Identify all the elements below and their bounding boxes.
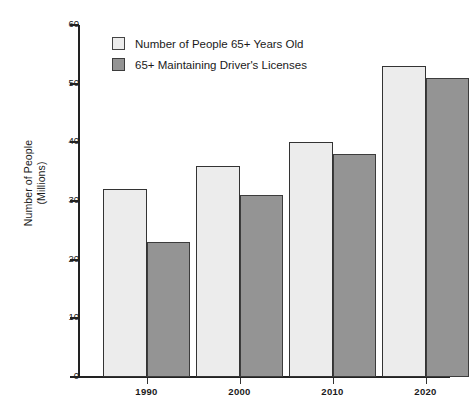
- y-axis-tick-mark: [70, 83, 79, 85]
- y-axis-label-line-1: Number of People: [22, 103, 35, 263]
- y-axis-tick-mark: [70, 24, 79, 26]
- x-axis-tick-label-2010: 2010: [303, 386, 363, 397]
- bar-2020-series-1: [382, 66, 426, 377]
- y-axis-tick-mark: [70, 200, 79, 202]
- x-axis-tick-mark: [333, 378, 335, 384]
- legend-item-1: Number of People 65+ Years Old: [112, 33, 307, 54]
- legend-item-label: 65+ Maintaining Driver's Licenses: [135, 59, 307, 71]
- x-axis-tick-mark: [147, 378, 149, 384]
- y-axis-tick-mark: [70, 141, 79, 143]
- bar-1990-series-2: [147, 242, 191, 377]
- x-axis-tick-label-2000: 2000: [210, 386, 270, 397]
- bar-2000-series-1: [196, 166, 240, 377]
- x-axis-tick-label-2020: 2020: [396, 386, 456, 397]
- x-axis-tick-label-1990: 1990: [117, 386, 177, 397]
- chart-legend: Number of People 65+ Years Old65+ Mainta…: [112, 33, 307, 75]
- legend-item-label: Number of People 65+ Years Old: [135, 38, 303, 50]
- bar-1990-series-1: [103, 189, 147, 377]
- legend-item-2: 65+ Maintaining Driver's Licenses: [112, 54, 307, 75]
- bar-2010-series-1: [289, 142, 333, 377]
- legend-swatch-icon: [112, 37, 125, 50]
- bar-2020-series-2: [426, 78, 469, 377]
- legend-swatch-icon: [112, 58, 125, 71]
- y-axis-label-line-2: (Millions): [35, 103, 48, 263]
- x-axis-tick-mark: [240, 378, 242, 384]
- bar-2000-series-2: [240, 195, 284, 377]
- y-axis-tick-mark: [70, 259, 79, 261]
- y-axis-tick-mark: [70, 317, 79, 319]
- y-axis-label: Number of People (Millions): [22, 103, 48, 263]
- bar-2010-series-2: [333, 154, 377, 377]
- x-axis-tick-mark: [426, 378, 428, 384]
